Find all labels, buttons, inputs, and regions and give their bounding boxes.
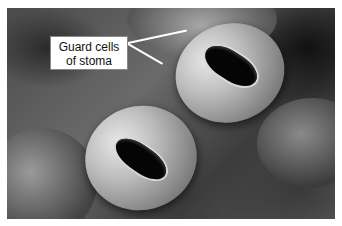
label-line-1: Guard cells [51, 40, 127, 54]
label-line-2: of stoma [51, 54, 127, 68]
epidermis-ridge [7, 128, 97, 219]
guard-cells-label: Guard cells of stoma [50, 36, 128, 70]
stomata-micrograph: Guard cells of stoma [7, 8, 335, 219]
epidermis-ridge [257, 98, 335, 188]
